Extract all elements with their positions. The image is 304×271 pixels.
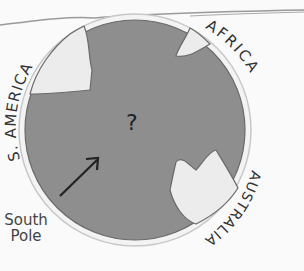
south-pole-label: South Pole xyxy=(4,212,48,244)
south-america-landmass xyxy=(30,26,92,94)
unknown-continent-mark: ? xyxy=(126,110,138,135)
globe-illustration: S. AMERICA AFRICA AUSTRALIA ? South Pole xyxy=(0,0,304,271)
south-pole-line2: Pole xyxy=(4,228,48,244)
south-pole-line1: South xyxy=(4,212,48,228)
